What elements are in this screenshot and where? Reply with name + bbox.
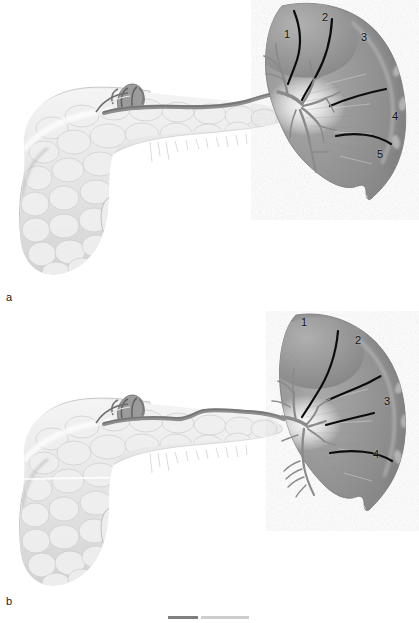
figure-root: a 1 2 3 4 5 [0,0,419,623]
segment-number-b-1: 1 [301,317,307,328]
caption-artifact-mark [168,616,198,619]
panel-a-illustration [0,0,419,311]
segment-number-a-2: 2 [322,12,328,23]
segment-number-b-2: 2 [355,335,361,346]
segment-number-b-4: 4 [373,449,379,460]
pancreas-lobules-a [10,80,300,290]
segment-number-a-3: 3 [361,32,367,43]
panel-b-illustration [0,311,419,622]
segment-number-a-4: 4 [392,111,398,122]
pancreas-duodenum-group-b [10,391,300,601]
pancreas-fringe-a [150,134,247,162]
caption-artifact-mark-secondary [201,616,249,619]
caption-artifact [168,614,254,621]
segment-number-b-3: 3 [384,396,390,407]
segment-number-a-5: 5 [377,149,383,160]
panel-a: a 1 2 3 4 5 [0,0,419,311]
pancreas-lobules-b [10,391,300,601]
panel-label-b: b [6,596,12,607]
spleen-group-a [254,2,408,200]
segment-number-a-1: 1 [284,29,290,40]
pancreas-duodenum-group-a [10,80,300,290]
panel-label-a: a [6,292,12,303]
spleen-group-b [268,314,410,511]
pancreas-fringe-b [150,445,247,473]
panel-b: b 1 2 3 4 [0,311,419,622]
